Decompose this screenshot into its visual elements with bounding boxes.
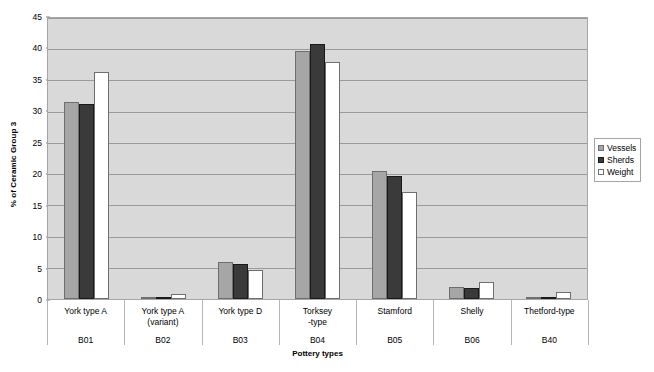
- bar-sherds[interactable]: [79, 104, 94, 299]
- x-axis-labels: York type A B01York type A(variant)B02Yo…: [47, 302, 588, 347]
- x-axis-label-name: York type A: [142, 306, 185, 316]
- bar-group: [48, 18, 125, 299]
- plot-area: [47, 17, 588, 300]
- bar-weight[interactable]: [479, 282, 494, 299]
- y-tick-label: 30: [33, 107, 42, 116]
- bar-sherds[interactable]: [464, 288, 479, 299]
- x-axis-label-name-line2: [202, 317, 279, 328]
- bar-group-bars: [48, 18, 125, 299]
- bar-vessels[interactable]: [64, 102, 79, 299]
- x-axis-label-code: B02: [124, 335, 201, 346]
- x-axis-label-name: Torksey: [303, 306, 332, 316]
- x-axis-label-code: B04: [279, 335, 356, 346]
- x-axis-separator: [588, 300, 589, 345]
- x-axis-label-name: York type D: [218, 306, 262, 316]
- bar-chart: % of Ceramic Group 3 051015202530354045 …: [0, 0, 654, 372]
- y-tick-label: 5: [37, 264, 42, 273]
- bar-weight[interactable]: [171, 294, 186, 299]
- bar-group-bars: [356, 18, 433, 299]
- y-tick-label: 20: [33, 170, 42, 179]
- bar-sherds[interactable]: [156, 297, 171, 299]
- x-axis-label-cell: Thetford-type B40: [511, 302, 588, 347]
- bar-vessels[interactable]: [449, 287, 464, 299]
- x-axis-label-name-line2: -type: [279, 317, 356, 328]
- legend-item-vessels[interactable]: Vessels: [598, 142, 636, 154]
- x-axis-label-cell: Shelly B06: [433, 302, 510, 347]
- y-axis-title: % of Ceramic Group 3: [9, 105, 18, 225]
- x-axis-label-name-line2: [433, 317, 510, 328]
- x-axis-label-cell: Torksey-typeB04: [279, 302, 356, 347]
- x-axis-label-name: York type A: [64, 306, 107, 316]
- legend-swatch-icon: [598, 145, 604, 151]
- x-axis-label-cell: York type D B03: [202, 302, 279, 347]
- bar-sherds[interactable]: [310, 44, 325, 299]
- x-axis-label-name-line2: [356, 317, 433, 328]
- bar-weight[interactable]: [248, 270, 263, 299]
- x-axis-label-name-line2: [47, 317, 124, 328]
- bar-vessels[interactable]: [295, 51, 310, 299]
- bar-group-bars: [433, 18, 510, 299]
- x-axis-label-code: B06: [433, 335, 510, 346]
- bar-sherds[interactable]: [541, 297, 556, 300]
- x-axis-label-name-line2: (variant): [124, 317, 201, 328]
- bar-vessels[interactable]: [372, 171, 387, 299]
- bar-vessels[interactable]: [526, 297, 541, 299]
- legend-swatch-icon: [598, 157, 604, 163]
- bar-weight[interactable]: [325, 62, 340, 299]
- bar-vessels[interactable]: [141, 297, 156, 299]
- y-tick-label: 45: [33, 13, 42, 22]
- bar-weight[interactable]: [94, 72, 109, 299]
- y-tick-label: 40: [33, 44, 42, 53]
- legend-item-label: Weight: [607, 166, 633, 178]
- x-axis-title: Pottery types: [47, 349, 588, 358]
- legend-item-label: Vessels: [607, 142, 636, 154]
- x-axis-label-code: B01: [47, 335, 124, 346]
- y-tick-label: 10: [33, 233, 42, 242]
- bar-vessels[interactable]: [218, 262, 233, 299]
- bar-sherds[interactable]: [233, 264, 248, 299]
- bar-group-bars: [510, 18, 587, 299]
- bar-group: [202, 18, 279, 299]
- x-axis-label-cell: York type A B01: [47, 302, 124, 347]
- bar-group-bars: [279, 18, 356, 299]
- bar-group: [356, 18, 433, 299]
- y-tick-label: 15: [33, 201, 42, 210]
- bar-group: [125, 18, 202, 299]
- bar-group-bars: [125, 18, 202, 299]
- x-axis-label-code: B40: [511, 335, 588, 346]
- bar-weight[interactable]: [556, 292, 571, 299]
- bar-sherds[interactable]: [387, 176, 402, 299]
- bar-group-bars: [202, 18, 279, 299]
- x-axis-label-cell: York type A(variant)B02: [124, 302, 201, 347]
- x-axis-label-cell: Stamford B05: [356, 302, 433, 347]
- legend: VesselsSherdsWeight: [594, 138, 641, 182]
- y-axis-ticks: 051015202530354045: [20, 17, 46, 300]
- legend-item-weight[interactable]: Weight: [598, 166, 636, 178]
- bar-groups: [48, 18, 587, 299]
- bar-weight[interactable]: [402, 192, 417, 299]
- x-axis-label-name: Stamford: [378, 306, 413, 316]
- x-axis-label-code: B03: [202, 335, 279, 346]
- legend-item-sherds[interactable]: Sherds: [598, 154, 636, 166]
- x-axis-label-code: B05: [356, 335, 433, 346]
- x-axis-label-name: Shelly: [460, 306, 483, 316]
- legend-item-label: Sherds: [607, 154, 634, 166]
- y-tick-label: 35: [33, 76, 42, 85]
- x-axis-label-name: Thetford-type: [524, 306, 575, 316]
- bar-group: [510, 18, 587, 299]
- legend-swatch-icon: [598, 169, 604, 175]
- y-tick-label: 0: [37, 296, 42, 305]
- bar-group: [279, 18, 356, 299]
- y-tick-label: 25: [33, 139, 42, 148]
- x-axis-label-name-line2: [511, 317, 588, 328]
- bar-group: [433, 18, 510, 299]
